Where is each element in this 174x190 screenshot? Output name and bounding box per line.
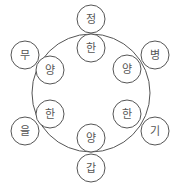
node-label: 기 (150, 125, 160, 138)
node-outer-bottom-left: 을 (11, 117, 39, 145)
node-label: 한 (45, 108, 55, 121)
node-label: 한 (86, 42, 96, 55)
node-outer-top-left: 무 (11, 41, 39, 69)
node-inner-bottom-right: 한 (113, 100, 141, 128)
node-outer-bottom: 갑 (77, 154, 105, 182)
node-label: 양 (122, 63, 132, 76)
node-label: 한 (122, 108, 132, 121)
node-inner-top-right: 양 (113, 55, 141, 83)
node-outer-top: 정 (77, 5, 105, 33)
node-label: 을 (20, 125, 30, 138)
node-label: 무 (20, 49, 30, 62)
node-label: 갑 (86, 162, 96, 175)
node-outer-bottom-right: 기 (141, 117, 169, 145)
node-inner-top-left: 양 (36, 56, 64, 84)
node-inner-top: 한 (77, 34, 105, 62)
node-group: 정한무양병양을한기한양갑 (11, 5, 169, 182)
node-label: 정 (86, 13, 96, 26)
node-outer-top-right: 병 (141, 41, 169, 69)
cycle-diagram: 정한무양병양을한기한양갑 (0, 0, 174, 190)
node-label: 병 (150, 49, 160, 62)
node-inner-bottom-left: 한 (36, 100, 64, 128)
node-label: 양 (45, 64, 55, 77)
node-inner-bottom: 양 (77, 124, 105, 152)
node-label: 양 (86, 132, 96, 145)
